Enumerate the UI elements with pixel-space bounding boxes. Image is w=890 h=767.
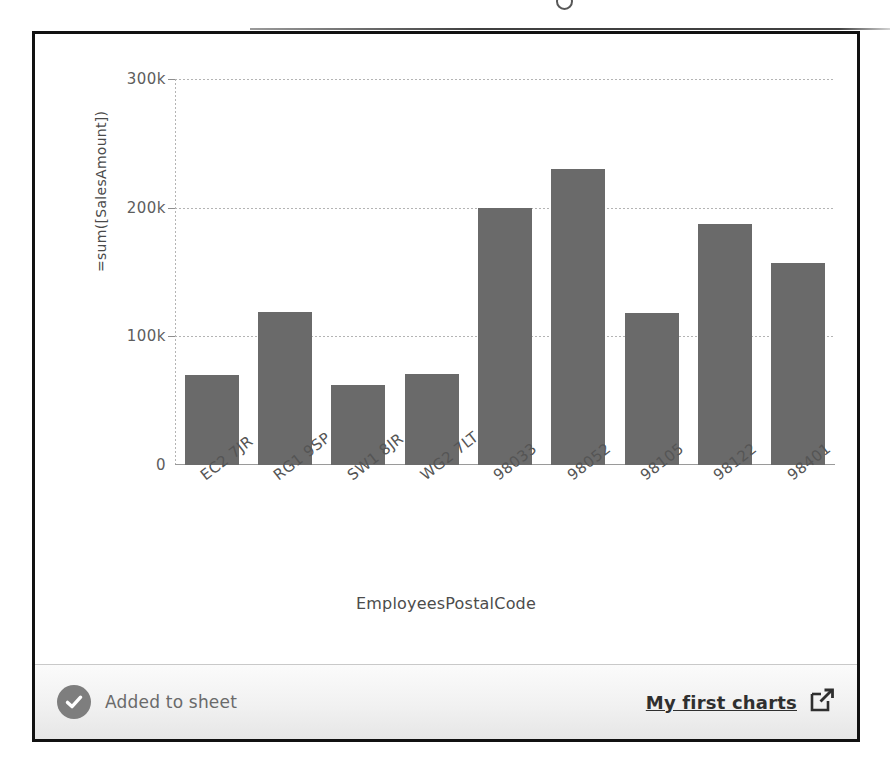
bar-slot[interactable] <box>615 79 688 465</box>
y-tick-label: 300k <box>127 70 166 88</box>
external-link-icon[interactable] <box>809 687 835 717</box>
y-tick-label: 100k <box>127 327 166 345</box>
bar-slot[interactable] <box>322 79 395 465</box>
y-tick-mark <box>168 336 175 337</box>
bar-slot[interactable] <box>688 79 761 465</box>
cutoff-circle-artifact-icon <box>556 0 573 10</box>
bar-slot[interactable] <box>175 79 248 465</box>
bar-slot[interactable] <box>468 79 541 465</box>
cutoff-rule-artifact <box>250 28 890 30</box>
bar[interactable] <box>478 208 532 465</box>
sheet-link-group[interactable]: My first charts <box>646 687 835 717</box>
x-axis-title: EmployeesPostalCode <box>35 594 857 613</box>
bar[interactable] <box>698 224 752 465</box>
bar-slot[interactable] <box>762 79 835 465</box>
y-tick-mark <box>168 79 175 80</box>
bar-slot[interactable] <box>248 79 321 465</box>
check-circle-icon <box>57 685 91 719</box>
bar-slot[interactable] <box>395 79 468 465</box>
bar[interactable] <box>551 169 605 465</box>
bar[interactable] <box>771 263 825 465</box>
chart-pane: =sum([SalesAmount]) 0100k200k300k EC2 7J… <box>35 34 857 664</box>
screenshot-root: =sum([SalesAmount]) 0100k200k300k EC2 7J… <box>0 0 890 767</box>
y-tick-label: 200k <box>127 199 166 217</box>
y-axis-title: =sum([SalesAmount]) <box>93 111 109 272</box>
bars-group <box>175 79 835 465</box>
x-tick-labels-group: EC2 7JRRG1 9SPSW1 8JRWG2 7LT980339805298… <box>175 470 835 580</box>
status-message-group: Added to sheet <box>57 685 237 719</box>
y-tick-mark <box>168 208 175 209</box>
chart-preview-panel: =sum([SalesAmount]) 0100k200k300k EC2 7J… <box>32 31 860 742</box>
plot-area: 0100k200k300k <box>175 79 835 465</box>
status-text: Added to sheet <box>105 692 237 712</box>
status-bar: Added to sheet My first charts <box>35 664 857 739</box>
bar-slot[interactable] <box>542 79 615 465</box>
sheet-link[interactable]: My first charts <box>646 692 797 713</box>
y-tick-label: 0 <box>156 456 166 474</box>
